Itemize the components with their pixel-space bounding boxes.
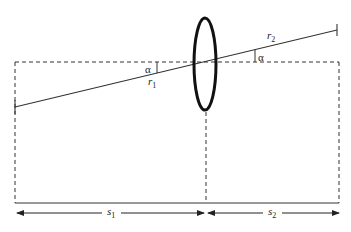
ray-line: [15, 30, 337, 107]
s2-subscript: 2: [272, 211, 276, 220]
alpha-right-label: α: [258, 51, 264, 63]
r2-subscript: 2: [271, 35, 275, 44]
s1-label: s1: [107, 205, 115, 220]
r1-label: r1: [148, 75, 156, 90]
s1-subscript: 1: [111, 211, 115, 220]
s2-label: s2: [268, 205, 276, 220]
r2-label: r2: [267, 29, 275, 44]
alpha-left-label: α: [145, 63, 151, 75]
lens: [194, 18, 216, 110]
lens-diagram: α α r1 r2 s1 s2: [0, 0, 351, 232]
r1-subscript: 1: [152, 81, 156, 90]
